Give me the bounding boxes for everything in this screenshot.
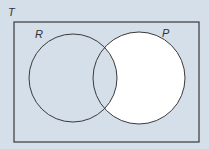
set-r-label: R xyxy=(35,28,43,40)
venn-diagram: T R P xyxy=(0,0,209,149)
universe-label: T xyxy=(8,6,16,18)
set-p-label: P xyxy=(162,27,170,39)
